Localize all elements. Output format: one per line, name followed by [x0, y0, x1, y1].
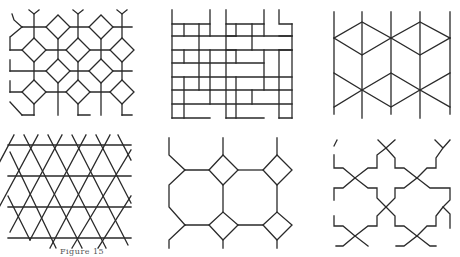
figure-canvas: [0, 0, 460, 257]
panel-octagon-diamond: [10, 10, 134, 115]
panel-stepped-cross: [334, 140, 450, 246]
panel-basketweave: [172, 10, 292, 118]
figure-caption: Figure 15: [60, 247, 104, 256]
panel-trihexagonal: [0, 135, 131, 248]
panel-isometric-cubes: [334, 12, 450, 118]
panel-octagon-square: [169, 138, 292, 248]
